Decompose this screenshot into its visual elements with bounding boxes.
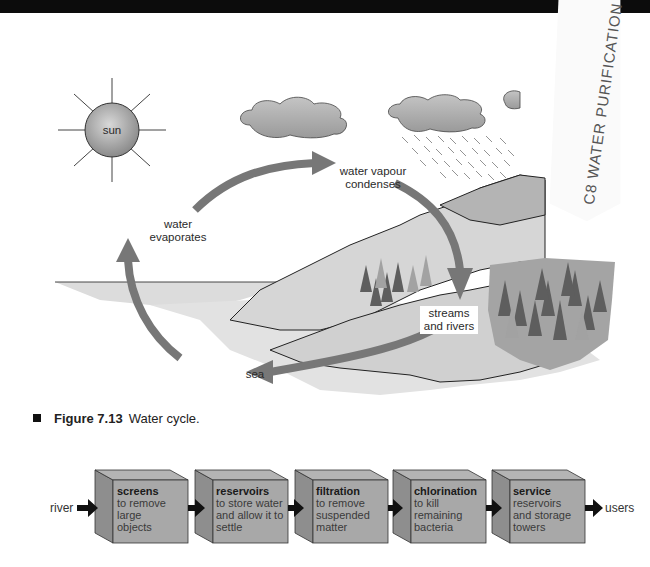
step-desc-line: and storage (513, 509, 585, 521)
evaporates-line-1: water (148, 218, 208, 231)
evaporates-line-2: evaporates (148, 231, 208, 244)
step-desc-line: to remove (117, 497, 187, 509)
step-desc-line: towers (513, 521, 585, 533)
step-desc-line: suspended (316, 509, 386, 521)
step-desc-line: reservoirs (513, 497, 585, 509)
caption-bullet-icon (33, 414, 41, 422)
sea-label: sea (240, 368, 270, 381)
handwritten-note-strip: C8 WATER PURIFICATION (545, 0, 625, 230)
step-desc-line: bacteria (414, 521, 486, 533)
sun-label: sun (98, 124, 126, 137)
step-chlorination-text: chlorination to kill remaining bacteria (414, 485, 486, 533)
step-filtration-text: filtration to remove suspended matter (316, 485, 386, 533)
figure-number: Figure 7.13 (54, 411, 123, 426)
step-desc-line: remaining (414, 509, 486, 521)
flow-input-label: river (50, 501, 73, 515)
condenses-label: water vapour condenses (333, 165, 413, 191)
streams-label: streams and rivers (420, 306, 478, 334)
step-desc-line: to kill (414, 497, 486, 509)
condenses-line-2: condenses (333, 178, 413, 191)
step-title: filtration (316, 485, 386, 497)
step-desc-line: to store water (216, 497, 288, 509)
figure-title: Water cycle. (129, 411, 200, 426)
step-service-text: service reservoirs and storage towers (513, 485, 585, 533)
streams-line-2: and rivers (423, 320, 475, 333)
step-screens-text: screens to remove large objects (117, 485, 187, 533)
step-desc-line: to remove (316, 497, 386, 509)
step-desc-line: and allow it to (216, 509, 288, 521)
step-desc-line: matter (316, 521, 386, 533)
flow-output-label: users (605, 501, 634, 515)
step-title: screens (117, 485, 187, 497)
streams-line-1: streams (423, 307, 475, 320)
step-desc-line: large (117, 509, 187, 521)
step-reservoirs-text: reservoirs to store water and allow it t… (216, 485, 288, 533)
step-title: service (513, 485, 585, 497)
cloud-icon (240, 91, 520, 138)
step-title: reservoirs (216, 485, 288, 497)
condenses-line-1: water vapour (333, 165, 413, 178)
step-desc-line: objects (117, 521, 187, 533)
step-desc-line: settle (216, 521, 288, 533)
evaporates-label: water evaporates (148, 218, 208, 244)
figure-caption: Figure 7.13Water cycle. (33, 411, 200, 426)
step-title: chlorination (414, 485, 486, 497)
rain-icon (402, 135, 514, 180)
